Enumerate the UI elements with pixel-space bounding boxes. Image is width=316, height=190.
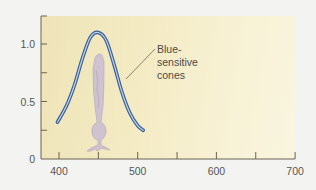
y-axis: 00.51.0 [20, 16, 47, 165]
y-tick-label: 0.5 [20, 96, 35, 108]
cone-cell-illustration [87, 54, 110, 151]
x-tick-label: 500 [129, 165, 147, 177]
annotation-line-2: sensitive [157, 56, 198, 68]
annotation-line-1: Blue- [157, 43, 182, 55]
spectral-sensitivity-chart: 00.51.0 400500600700 Blue- sensitive con… [0, 0, 316, 190]
annotation-line-3: cones [157, 69, 185, 81]
x-tick-label: 700 [286, 165, 304, 177]
y-tick-label: 1.0 [20, 38, 35, 50]
series-annotation: Blue- sensitive cones [126, 43, 198, 81]
x-axis: 400500600700 [41, 152, 304, 177]
x-tick-label: 600 [208, 165, 226, 177]
y-tick-label: 0 [29, 153, 35, 165]
x-tick-label: 400 [50, 165, 68, 177]
